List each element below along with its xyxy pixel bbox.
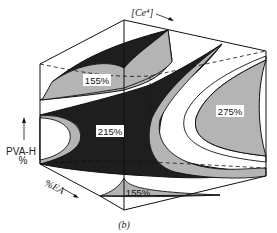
svg-text:%EA: %EA [43, 177, 67, 197]
cube-figure: 155% 215% 275% 155% [Ce⁴] PVA-H % %EA [0, 0, 277, 233]
arrow-right-icon [168, 17, 174, 21]
region-label-275: 275% [216, 105, 244, 117]
svg-text:275%: 275% [218, 106, 243, 117]
svg-text:%: % [19, 155, 28, 166]
svg-text:155%: 155% [85, 75, 110, 86]
region-label-155-bottom: 155% [126, 187, 151, 198]
axis-label-ce4: [Ce⁴] [131, 7, 174, 21]
svg-text:215%: 215% [98, 126, 123, 137]
response-surface-cube-diagram: 155% 215% 275% 155% [Ce⁴] PVA-H % %EA [0, 0, 277, 233]
region-label-215: 215% [96, 125, 124, 137]
axis-label-ea: %EA [43, 177, 79, 198]
svg-text:[Ce⁴]: [Ce⁴] [131, 7, 153, 18]
arrow-up-icon [22, 117, 26, 123]
bottom-gray-surface [100, 178, 220, 197]
svg-text:155%: 155% [126, 187, 151, 198]
panel-label: (b) [118, 219, 130, 231]
region-label-155-upper: 155% [83, 74, 111, 86]
axis-label-pva-h: PVA-H % [6, 117, 36, 166]
